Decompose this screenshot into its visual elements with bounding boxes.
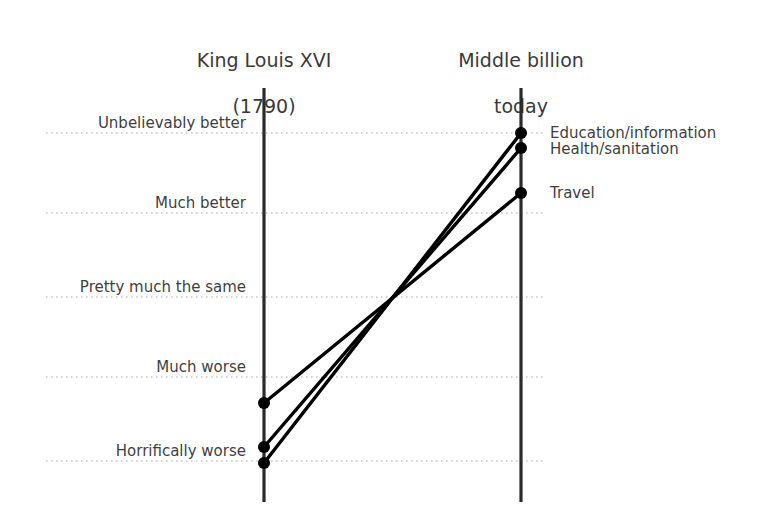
marker-left-education-information <box>258 457 270 469</box>
slope-line-travel <box>264 193 521 403</box>
y-axis-label-unbelievably-better: Unbelievably better <box>98 114 246 132</box>
series-label-travel: Travel <box>550 184 595 202</box>
marker-right-travel <box>515 187 527 199</box>
marker-right-education-information <box>515 127 527 139</box>
slopegraph-chart: King Louis XVI (1790) Middle billion tod… <box>0 0 774 525</box>
y-axis-label-much-worse: Much worse <box>156 358 246 376</box>
slope-lines <box>264 133 521 463</box>
marker-left-health-sanitation <box>258 441 270 453</box>
y-axis-label-much-better: Much better <box>155 194 246 212</box>
y-axis-label-pretty-much-the-same: Pretty much the same <box>80 278 246 296</box>
y-axis-label-horrifically-worse: Horrifically worse <box>116 442 246 460</box>
series-label-health-sanitation: Health/sanitation <box>550 140 679 158</box>
marker-right-health-sanitation <box>515 142 527 154</box>
marker-left-travel <box>258 397 270 409</box>
